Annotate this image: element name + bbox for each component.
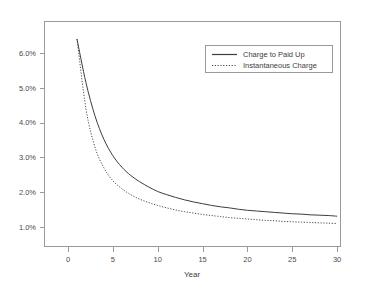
y-tick-label: 2.0%: [19, 188, 36, 197]
y-tick-label: 3.0%: [19, 153, 36, 162]
x-tick-label: 0: [66, 255, 70, 264]
y-tick-label: 4.0%: [19, 118, 36, 127]
chart-container: 051015202530 1.0%2.0%3.0%4.0%5.0%6.0% Ch…: [0, 0, 365, 296]
x-axis-ticks: [69, 247, 338, 252]
x-tick-label: 30: [333, 255, 341, 264]
legend-label-0: Charge to Paid Up: [243, 50, 305, 59]
x-tick-label: 5: [111, 255, 115, 264]
y-axis-tick-labels: 1.0%2.0%3.0%4.0%5.0%6.0%: [19, 49, 36, 232]
x-axis-tick-labels: 051015202530: [66, 255, 341, 264]
y-tick-label: 6.0%: [19, 49, 36, 58]
x-tick-label: 10: [154, 255, 162, 264]
y-axis-ticks: [40, 54, 45, 228]
x-tick-label: 25: [288, 255, 296, 264]
y-tick-label: 1.0%: [19, 223, 36, 232]
x-tick-label: 15: [198, 255, 206, 264]
x-axis-title: Year: [184, 270, 201, 279]
y-tick-label: 5.0%: [19, 84, 36, 93]
x-tick-label: 20: [243, 255, 251, 264]
legend-label-1: Instantaneous Charge: [243, 61, 317, 70]
legend: Charge to Paid Up Instantaneous Charge: [206, 46, 333, 73]
line-chart: 051015202530 1.0%2.0%3.0%4.0%5.0%6.0% Ch…: [0, 0, 365, 296]
